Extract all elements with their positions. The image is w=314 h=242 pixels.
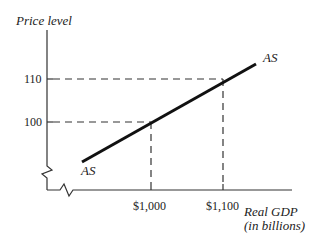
y-axis-label: Price level xyxy=(16,13,72,29)
y-tick-label-110: 110 xyxy=(24,72,42,87)
as-end-label: AS xyxy=(263,50,277,66)
x-axis xyxy=(47,184,292,196)
y-tick-label-100: 100 xyxy=(24,115,42,130)
as-start-label: AS xyxy=(81,163,95,179)
x-axis-sublabel: (in billions) xyxy=(244,218,305,234)
y-axis xyxy=(42,30,52,190)
as-curve xyxy=(82,64,256,162)
x-tick-label-1100: $1,100 xyxy=(206,199,239,214)
x-tick-label-1000: $1,000 xyxy=(133,199,166,214)
